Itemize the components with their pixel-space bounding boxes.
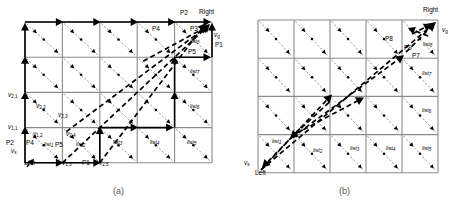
goal-label: vg [214,32,220,39]
list-4-text: list [386,145,393,151]
diagonal-midpoint-a5 [42,74,45,77]
diagonal-arrowhead-b17-b [358,164,362,168]
path-p1-bottom-text: P1 [82,159,90,166]
right-label-text: Right [423,6,438,13]
path-p4-bottom: P4 [26,140,34,147]
list-3-subscript: 3 [120,141,123,146]
list-3-text: list [350,145,357,151]
ray-b-long-2-head [395,55,404,63]
diagonal-midpoint-a3 [155,38,158,41]
path-solid-goal-up-head [208,23,216,31]
diagonal-midpoint-a2 [117,38,120,41]
diagonal-midpoint-b8 [383,76,386,79]
goal-label-subscript: g [217,34,220,39]
list-1-subscript: 1 [51,143,54,148]
source-label-subscript: s [247,162,249,167]
path-p3-top-text: P3 [190,25,198,32]
source-label: vs [11,148,17,155]
diagonal-midpoint-b14 [419,114,422,117]
list-3: list3 [350,146,359,152]
diagonal-midpoint-b13 [383,114,386,117]
vertex-2-4-subscript: 2,4 [69,133,75,138]
path-p5-bottom-text: P5 [55,141,63,148]
vertex-2-1: v2,1 [8,92,18,99]
list-4: list4 [150,140,159,146]
path-p1-right: P1 [215,42,223,49]
right-label: Right [199,9,214,16]
diagonal-arrowhead-b13-b [394,126,398,130]
path-p2-top: P2 [180,10,188,17]
vertex-2-3-subscript: 2,3 [61,114,67,119]
vertex-2-2-subscript: 2,2 [39,105,45,110]
diagonal-arrowhead-b18-b [394,164,398,168]
list-6: list6 [190,104,199,110]
path-p8-top: P8 [385,36,393,43]
left-label: Left [255,170,266,177]
diagonal-arrowhead-b10-b [286,126,290,130]
vertex-1-2-subscript: 1,2 [36,133,42,138]
vertex-1-3-subscript: 1,3 [65,162,71,167]
list-2: list2 [313,148,322,154]
diagonal-arrowhead-b16-b [322,164,326,168]
list-5: list5 [187,140,196,146]
diagonal-midpoint-b17 [347,152,350,155]
diagonal-midpoint-b9 [419,76,422,79]
diagram-canvas [0,0,468,209]
right-label: Right [423,7,438,14]
vertex-1-2: v1,2 [33,131,43,138]
diagonal-arrowhead-b0-b [286,50,290,54]
path-p4-top: P4 [152,26,160,33]
list-7-text: list [422,70,429,76]
list-7-subscript: 7 [429,72,432,77]
list-2-subscript: 2 [83,143,86,148]
diagonal-midpoint-a11 [80,109,83,112]
diagonal-midpoint-b19 [419,152,422,155]
diagonal-midpoint-b5 [275,76,278,79]
diagonal-midpoint-b10 [275,114,278,117]
diagonal-arrowhead-b14-b [430,126,434,130]
diagonal-arrowhead-b4-b [430,50,434,54]
list-3-text: list [113,139,120,145]
caption-panel-b: (b) [339,186,350,196]
ray-b-long-2-shaft [292,58,400,138]
path-p2-top-text: P2 [180,9,188,16]
path-solid-mid-2-head [166,124,174,132]
vertex-2-3: v2,3 [58,112,68,119]
list-4-subscript: 4 [393,147,396,152]
path-p1-right-text: P1 [215,41,223,48]
diagonal-midpoint-a7 [117,74,120,77]
path-p4-top-text: P4 [152,25,160,32]
path-p5-bottom: P5 [55,142,63,149]
diagonal-midpoint-a13 [155,109,158,112]
list-1-subscript: 1 [279,140,282,145]
path-p7-top: P7 [412,53,420,60]
vertex-1-1: v1,1 [8,124,18,131]
path-p5-right: P5 [188,49,196,56]
list-8-text: list [423,41,430,47]
path-p9-top: P9 [404,45,412,52]
list-7-text: list [190,68,197,74]
figure-root: vsLeftvgRightv2,1v2,2v2,3v1,1v1,2v2,4v1,… [0,0,468,209]
list-8-text: list [190,38,197,44]
diagonal-midpoint-b12 [347,114,350,117]
list-3: list3 [113,140,122,146]
diagonal-arrowhead-b19-b [430,164,434,168]
list-2-text: list [313,147,320,153]
list-5-subscript: 5 [194,141,197,146]
vertex-2-1-subscript: 2,1 [11,94,17,99]
list-4: list4 [386,146,395,152]
ray-b-back-2-shaft [293,102,329,135]
diagonal-arrowhead-b11-b [322,126,326,130]
vertex-2-5-subscript: 2,5 [102,162,108,167]
list-1: list1 [272,139,281,145]
list-6-subscript: 6 [197,105,200,110]
caption-panel-a: (a) [113,186,124,196]
path-p8-top-text: P8 [385,35,393,42]
path-p2-bottom: P2 [6,140,14,147]
list-2-subscript: 2 [320,149,323,154]
left-label: Left [24,160,35,167]
diagonal-midpoint-b6 [311,76,314,79]
diagonal-arrowhead-b1-b [322,50,326,54]
list-8-subscript: 8 [197,40,200,45]
goal-label-subscript: g [445,29,448,34]
